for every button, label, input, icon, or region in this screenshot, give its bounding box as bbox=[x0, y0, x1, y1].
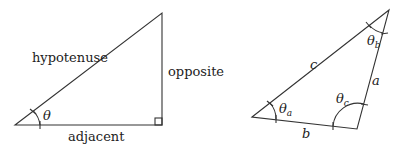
theta-label: θ bbox=[43, 108, 51, 123]
side-b-label: b bbox=[302, 126, 310, 141]
theta-c-label: θc bbox=[336, 91, 349, 108]
right-triangle: θ hypotenuse opposite adjacent bbox=[15, 13, 224, 144]
theta-b-arc-icon bbox=[369, 25, 383, 33]
right-angle-marker-icon bbox=[155, 118, 162, 125]
opposite-label: opposite bbox=[168, 64, 224, 79]
theta-a-label: θa bbox=[279, 101, 292, 118]
right-triangle-outline bbox=[15, 13, 162, 125]
arc-tick bbox=[361, 104, 368, 105]
diagram-canvas: θ hypotenuse opposite adjacent θa θb θc … bbox=[0, 0, 403, 147]
adjacent-label: adjacent bbox=[68, 129, 125, 144]
side-c-label: c bbox=[310, 57, 318, 72]
side-a-label: a bbox=[372, 73, 380, 88]
general-triangle: θa θb θc c a b bbox=[252, 10, 389, 141]
theta-b-label: θb bbox=[367, 33, 381, 50]
hypotenuse-label: hypotenuse bbox=[32, 50, 108, 65]
general-triangle-outline bbox=[252, 10, 389, 129]
